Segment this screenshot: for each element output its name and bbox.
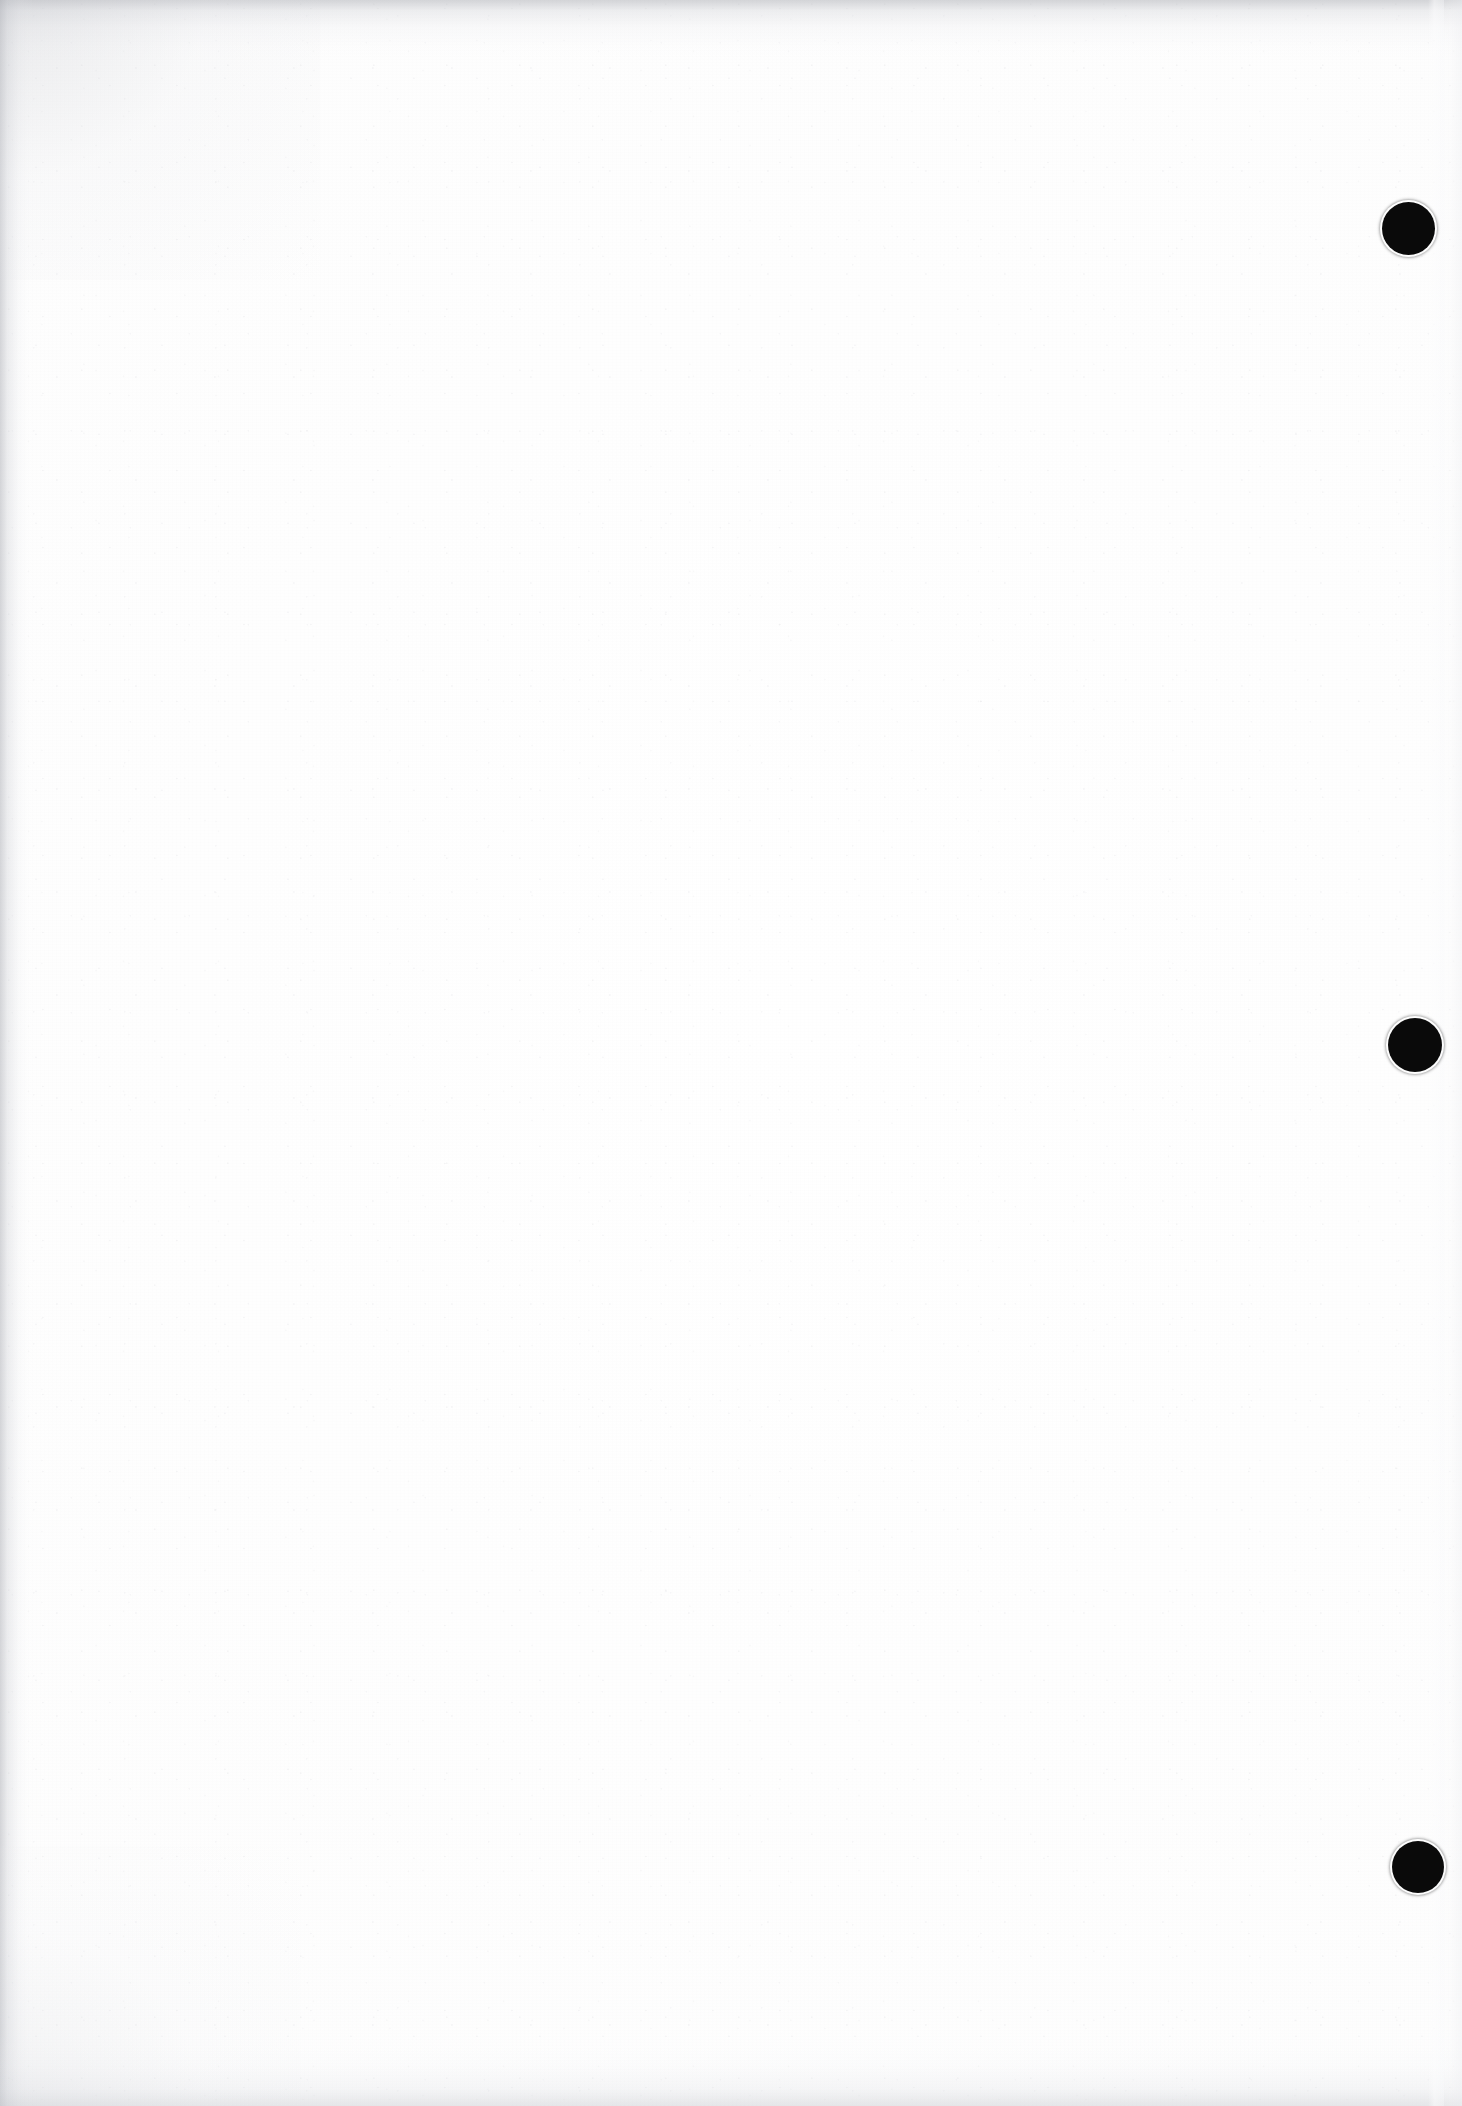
registration-dot-middle — [1388, 1018, 1442, 1072]
page-body-text — [120, 160, 1300, 1940]
top-edge-shadow — [0, 0, 1462, 60]
registration-dot-top — [1382, 202, 1435, 255]
registration-dot-bottom — [1392, 1841, 1444, 1893]
scanned-page — [0, 0, 1462, 2106]
bottom-edge-shadow — [0, 2034, 1462, 2106]
left-edge-shadow — [0, 0, 34, 2106]
